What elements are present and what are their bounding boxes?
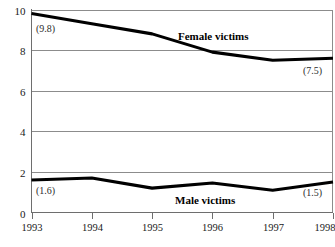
female-victims-label: Female victims: [178, 30, 249, 42]
x-tick-label-1994: 1994: [82, 222, 104, 233]
female-end-annotation: (7.5): [303, 65, 322, 77]
male-victims-label: Male victims: [175, 194, 236, 206]
male-end-annotation: (1.5): [303, 187, 322, 199]
x-tick-label-1998: 1998: [315, 222, 335, 233]
y-tick-label-6: 6: [20, 86, 26, 98]
y-tick-label-10: 10: [15, 5, 27, 17]
female-start-annotation: (9.8): [36, 23, 55, 35]
male-start-annotation: (1.6): [36, 185, 55, 197]
y-tick-label-0: 0: [20, 208, 26, 220]
y-tick-label-2: 2: [20, 167, 26, 179]
x-tick-label-1997: 1997: [263, 222, 284, 233]
x-tick-label-1993: 1993: [22, 222, 43, 233]
y-tick-label-8: 8: [20, 45, 26, 57]
y-tick-label-4: 4: [20, 126, 26, 138]
chart-container: 0246810 199319941995199619971998 Female …: [0, 0, 335, 247]
x-tick-label-1995: 1995: [142, 222, 163, 233]
line-chart: 0246810 199319941995199619971998 Female …: [0, 0, 335, 247]
x-tick-label-1996: 1996: [202, 222, 223, 233]
